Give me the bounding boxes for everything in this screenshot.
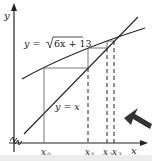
line-y-equals-x [24, 17, 138, 134]
bottom-bar [0, 155, 152, 161]
axis-break-icon [10, 137, 17, 142]
svg-text:6x + 13: 6x + 13 [54, 38, 92, 49]
x-axis-arrow-icon [140, 140, 148, 146]
pointer-arrow-icon [124, 108, 152, 129]
y-axis-label: y [3, 10, 10, 21]
curve-sqrt [22, 28, 145, 79]
iteration-diagram: y x y = 6x + 13 y = x x 0 x 1 x 2 x 3 [0, 0, 152, 161]
y-axis-arrow-icon [11, 3, 17, 11]
drop-lines [88, 41, 114, 143]
curve-label: y = 6x + 13 [23, 37, 92, 49]
svg-text:y =: y = [23, 38, 40, 49]
line-label: y = x [54, 101, 80, 112]
axis-break-icon [15, 140, 22, 145]
staircase [44, 41, 114, 143]
